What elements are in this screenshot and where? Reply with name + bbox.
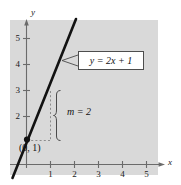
x-axis-arrow xyxy=(159,162,166,167)
equation-leader-line-lower xyxy=(62,61,78,67)
x-tick-label-4: 4 xyxy=(117,169,128,179)
equation-text: y = 2x + 1 xyxy=(90,55,132,66)
slope-label: m = 2 xyxy=(67,106,91,117)
x-tick-label-2: 2 xyxy=(69,169,80,179)
x-axis-label: x xyxy=(168,157,172,167)
y-tick-label-4: 4 xyxy=(8,59,20,69)
y-tick-label-3: 3 xyxy=(8,85,20,95)
y-tick-label-5: 5 xyxy=(8,33,20,43)
slope-brace xyxy=(54,91,61,141)
function-line xyxy=(13,19,77,178)
y-axis-arrow xyxy=(24,19,29,26)
y-axis-label: y xyxy=(31,7,35,17)
x-tick-label-5: 5 xyxy=(141,169,152,179)
y-tick-label-2: 2 xyxy=(8,111,20,121)
intercept-point-label: (0, 1) xyxy=(19,142,41,153)
equation-callout-box: y = 2x + 1 xyxy=(78,51,144,70)
graph-canvas xyxy=(0,0,181,185)
equation-leader-line-upper xyxy=(62,55,78,61)
x-tick-label-1: 1 xyxy=(45,169,56,179)
x-tick-label-3: 3 xyxy=(93,169,104,179)
linear-function-figure: y x 1 2 3 4 5 5 4 3 2 y = 2x + 1 m = 2 (… xyxy=(0,0,181,185)
